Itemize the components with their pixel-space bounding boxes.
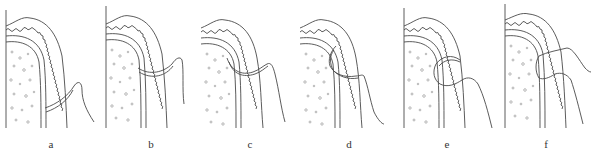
tissue-cross-section-e (398, 0, 496, 135)
panel-d: d (300, 0, 398, 162)
tissue-cross-section-c (201, 0, 299, 135)
panel-label-d: d (300, 138, 398, 150)
panel-label-e: e (398, 138, 496, 150)
panel-c: c (201, 0, 299, 162)
tissue-cross-section-d (300, 0, 398, 135)
panel-label-c: c (201, 138, 299, 150)
panel-label-b: b (102, 138, 200, 150)
panel-b: b (102, 0, 200, 162)
panel-label-f: f (497, 138, 592, 150)
panel-f: f (497, 0, 592, 162)
panel-a: a (2, 0, 100, 162)
panel-e: e (398, 0, 496, 162)
panel-label-a: a (2, 138, 100, 150)
tissue-cross-section-a (2, 0, 100, 135)
tissue-cross-section-f (497, 0, 592, 135)
suture-diagram-figure: a b (0, 0, 592, 162)
tissue-cross-section-b (102, 0, 200, 135)
bone-marrow-dots (10, 51, 35, 123)
